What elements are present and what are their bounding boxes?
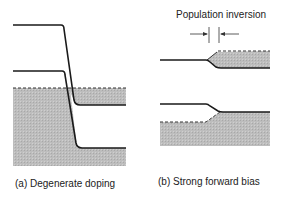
caption-b: (b) Strong forward bias	[158, 176, 260, 187]
valence-band-edge-b	[160, 104, 270, 112]
conduction-filled-states	[207, 51, 270, 68]
panel-b-forward-bias	[160, 27, 270, 146]
valence-filled-states	[160, 112, 270, 146]
population-inversion-marker	[190, 27, 239, 43]
arrow-right-icon	[203, 32, 208, 36]
filled-states-right	[68, 88, 126, 105]
population-inversion-label: Population inversion	[176, 9, 266, 20]
caption-a: (a) Degenerate doping	[15, 178, 115, 189]
panel-a-degenerate-doping	[13, 25, 126, 166]
band-diagram	[0, 0, 285, 197]
arrow-left-icon	[220, 32, 225, 36]
